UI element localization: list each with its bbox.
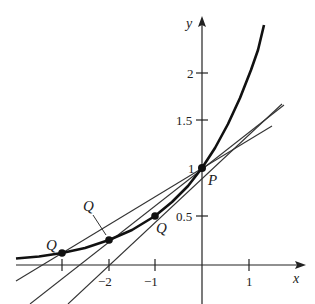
- x-axis-label: x: [292, 271, 300, 286]
- secant-diagram: y x −2 −1 1 0.5 1 1.5 2 P Q Q Q: [0, 0, 315, 304]
- point-q1: [151, 212, 159, 220]
- x-tick-label-1: 1: [246, 274, 253, 289]
- q2-leader-line: [93, 215, 106, 235]
- y-tick-label-2: 2: [187, 66, 194, 81]
- y-axis-label: y: [184, 16, 193, 31]
- point-p: [198, 164, 206, 172]
- x-tick-label-neg2: −2: [98, 274, 112, 289]
- exponential-curve: [16, 25, 264, 259]
- secant-line-q3: [16, 126, 272, 281]
- axes: [16, 22, 300, 304]
- label-p: P: [207, 172, 217, 188]
- y-tick-label-0-5: 0.5: [176, 209, 192, 224]
- point-q2: [105, 236, 113, 244]
- y-tick-label-1-5: 1.5: [176, 113, 192, 128]
- label-q3: Q: [46, 237, 57, 253]
- label-q1: Q: [156, 220, 167, 236]
- x-tick-label-neg1: −1: [144, 274, 158, 289]
- y-tick-label-1: 1: [188, 161, 195, 176]
- point-q3: [58, 249, 66, 257]
- label-q2: Q: [83, 198, 94, 214]
